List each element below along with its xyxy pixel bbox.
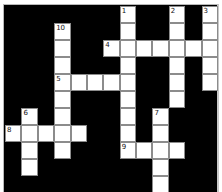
crossword-cell[interactable] [136, 40, 152, 57]
clue-number: 9 [122, 143, 126, 151]
clue-number: 1 [122, 7, 126, 15]
crossword-cell[interactable] [202, 74, 218, 91]
crossword-cell[interactable] [202, 40, 218, 57]
clue-number: 7 [154, 109, 158, 117]
crossword-cell[interactable] [21, 159, 37, 176]
crossword-cell[interactable]: 5 [54, 74, 70, 91]
crossword-cell[interactable]: 7 [152, 108, 168, 125]
clue-number: 4 [105, 41, 109, 49]
crossword-cell[interactable] [54, 125, 70, 142]
crossword-cell[interactable] [71, 125, 87, 142]
clue-number: 2 [171, 7, 175, 15]
crossword-cell[interactable]: 8 [5, 125, 21, 142]
crossword-cell[interactable] [120, 57, 136, 74]
crossword-cell[interactable] [21, 125, 37, 142]
crossword-cell[interactable] [120, 23, 136, 40]
crossword-cell[interactable] [169, 40, 185, 57]
crossword-cell[interactable] [21, 142, 37, 159]
clue-number: 3 [204, 7, 208, 15]
crossword-cell[interactable]: 1 [120, 6, 136, 23]
clue-number: 8 [7, 126, 11, 134]
crossword-cell[interactable]: 4 [103, 40, 119, 57]
crossword-cell[interactable] [54, 108, 70, 125]
crossword-cell[interactable] [54, 40, 70, 57]
crossword-cell[interactable] [169, 23, 185, 40]
crossword-cell[interactable] [152, 159, 168, 176]
crossword-cell[interactable] [169, 142, 185, 159]
clue-number: 6 [23, 109, 27, 117]
crossword-cell[interactable] [38, 125, 54, 142]
crossword-cell[interactable] [169, 91, 185, 108]
crossword-cell[interactable]: 3 [202, 6, 218, 23]
crossword-grid: 12310456789 [5, 6, 218, 192]
crossword-cell[interactable] [120, 74, 136, 91]
crossword-cell[interactable] [136, 142, 152, 159]
clue-number: 5 [56, 75, 60, 83]
crossword-cell[interactable] [152, 125, 168, 142]
crossword-cell[interactable] [169, 74, 185, 91]
crossword-cell[interactable] [103, 74, 119, 91]
crossword-cell[interactable] [120, 91, 136, 108]
crossword-cell[interactable]: 10 [54, 23, 70, 40]
crossword-cell[interactable] [120, 108, 136, 125]
crossword-cell[interactable]: 2 [169, 6, 185, 23]
crossword-cell[interactable] [71, 74, 87, 91]
crossword-cell[interactable] [202, 57, 218, 74]
crossword-cell[interactable] [202, 23, 218, 40]
crossword-cell[interactable] [152, 40, 168, 57]
crossword-cell[interactable] [152, 142, 168, 159]
crossword-cell[interactable] [185, 40, 201, 57]
crossword-cell[interactable]: 9 [120, 142, 136, 159]
crossword-cell[interactable] [54, 142, 70, 159]
clue-number: 10 [56, 24, 65, 32]
crossword-cell[interactable] [169, 57, 185, 74]
crossword-cell[interactable]: 6 [21, 108, 37, 125]
crossword-cell[interactable] [120, 40, 136, 57]
crossword-cell[interactable] [120, 125, 136, 142]
crossword-cell[interactable] [54, 57, 70, 74]
crossword-cell[interactable] [87, 74, 103, 91]
crossword-cell[interactable] [54, 91, 70, 108]
crossword-cell[interactable] [152, 176, 168, 192]
